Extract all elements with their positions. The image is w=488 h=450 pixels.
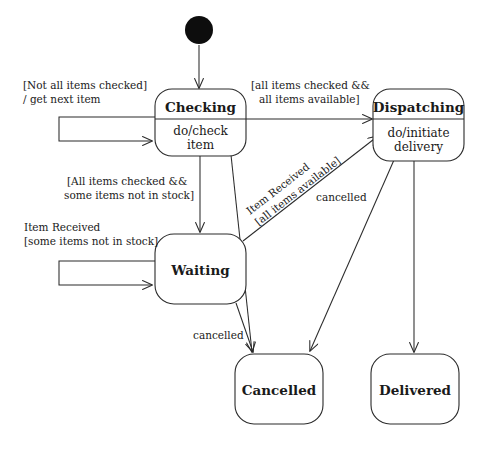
state-dispatching[interactable]: Dispatching do/initiate delivery	[373, 89, 465, 161]
label-waiting-to-cancelled: cancelled	[193, 329, 244, 341]
label-waiting-to-cancelled-text: cancelled	[193, 329, 244, 341]
label-checking-to-dispatching: [all items checked && all items availabl…	[251, 79, 370, 105]
state-checking-activity-line1: do/check	[173, 124, 228, 138]
label-checking-self-loop: [Not all items checked] / get next item	[23, 79, 147, 105]
state-checking-name: Checking	[165, 99, 237, 115]
transition-checking-self-loop	[59, 117, 157, 141]
state-diagram-svg: Checking do/check item Dispatching do/in…	[0, 0, 488, 450]
label-checking-to-waiting: [All items checked && some items not in …	[64, 175, 194, 201]
state-cancelled-name: Cancelled	[242, 382, 317, 398]
state-delivered-name: Delivered	[379, 382, 452, 398]
state-dispatching-name: Dispatching	[373, 99, 465, 115]
state-checking[interactable]: Checking do/check item	[155, 89, 246, 156]
label-dispatching-to-cancelled-text: cancelled	[316, 191, 367, 203]
label-waiting-to-dispatching: Item Received [all items available]	[244, 143, 343, 228]
state-dispatching-activity-line2: delivery	[394, 140, 443, 154]
label-checking-self-loop-line2: / get next item	[23, 93, 101, 105]
state-waiting-name: Waiting	[170, 262, 230, 278]
state-checking-activity-line2: item	[187, 138, 215, 152]
label-waiting-self-loop-line1: Item Received	[24, 221, 101, 233]
state-diagram-canvas: Checking do/check item Dispatching do/in…	[0, 0, 488, 450]
state-delivered[interactable]: Delivered	[371, 354, 459, 424]
label-checking-to-waiting-line1: [All items checked &&	[67, 175, 187, 187]
transition-waiting-self-loop	[59, 261, 157, 285]
state-waiting[interactable]: Waiting	[155, 234, 246, 304]
label-checking-to-waiting-line2: some items not in stock]	[64, 189, 194, 201]
transition-waiting-to-cancelled	[236, 303, 253, 352]
transition-waiting-to-dispatching	[243, 136, 378, 241]
label-checking-to-dispatching-line2: all items available]	[259, 93, 360, 105]
label-waiting-self-loop-line2: [some items not in stock]	[24, 235, 158, 247]
label-waiting-self-loop: Item Received [some items not in stock]	[24, 221, 158, 247]
label-checking-self-loop-line1: [Not all items checked]	[23, 79, 147, 91]
initial-pseudostate	[185, 16, 213, 44]
transition-dispatching-to-cancelled	[310, 160, 394, 351]
state-cancelled[interactable]: Cancelled	[235, 354, 323, 424]
label-checking-to-dispatching-line1: [all items checked &&	[251, 79, 370, 91]
state-dispatching-activity-line1: do/initiate	[387, 126, 449, 140]
label-dispatching-to-cancelled: cancelled	[316, 191, 367, 203]
